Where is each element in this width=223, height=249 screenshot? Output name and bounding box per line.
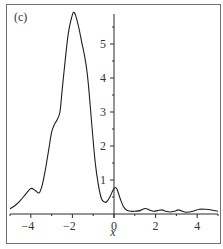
x-tick-label: 4 bbox=[194, 219, 200, 233]
x-tick-label: −2 bbox=[63, 219, 76, 233]
y-tick-label: 3 bbox=[100, 105, 106, 119]
y-tick-label: 4 bbox=[100, 71, 106, 85]
y-tick-label: 5 bbox=[100, 37, 106, 51]
y-axis: 12345 bbox=[100, 14, 114, 218]
chart-svg: (c) −4−2024 12345 x bbox=[0, 0, 223, 249]
x-tick-label: −4 bbox=[21, 219, 34, 233]
x-tick-label: 2 bbox=[153, 219, 159, 233]
y-tick-label: 2 bbox=[100, 139, 106, 153]
y-tick-label: 1 bbox=[100, 173, 106, 187]
panel-label: (c) bbox=[14, 10, 27, 24]
x-axis-label: x bbox=[109, 225, 116, 239]
